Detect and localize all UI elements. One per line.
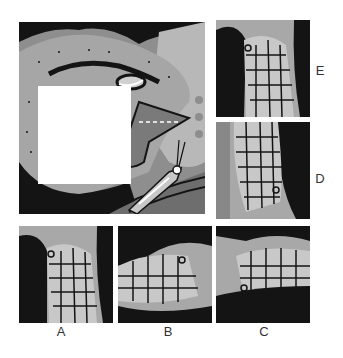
label-a: A (53, 325, 69, 339)
label-b: B (160, 325, 176, 339)
option-tile-b[interactable] (118, 226, 212, 323)
option-tile-c[interactable] (216, 226, 310, 323)
scale-patch-d (216, 122, 310, 219)
scale-patch-e (216, 20, 310, 117)
missing-patch (38, 86, 131, 184)
option-tile-a[interactable] (19, 226, 113, 323)
scale-patch-c (216, 226, 310, 323)
lizard-illustration (19, 22, 205, 214)
scale-patch-b (118, 226, 212, 323)
main-image (19, 22, 205, 214)
label-c: C (256, 325, 272, 339)
label-d: D (312, 172, 328, 186)
label-e: E (312, 64, 328, 78)
option-tile-e[interactable] (216, 20, 310, 117)
option-tile-d[interactable] (216, 122, 310, 219)
scale-patch-a (19, 226, 113, 323)
